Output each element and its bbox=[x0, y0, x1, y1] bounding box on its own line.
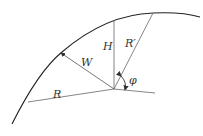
label-phi: φ bbox=[129, 74, 137, 87]
geometry-diagram: H R′ W R φ bbox=[0, 0, 203, 136]
baseline bbox=[114, 89, 155, 93]
label-R: R bbox=[52, 88, 61, 101]
radius-R-line bbox=[28, 89, 114, 102]
label-R-prime: R′ bbox=[124, 37, 136, 50]
label-W: W bbox=[81, 56, 94, 69]
angle-phi-arc bbox=[121, 76, 126, 90]
boundary-curve bbox=[12, 13, 200, 124]
label-H: H bbox=[102, 40, 113, 53]
